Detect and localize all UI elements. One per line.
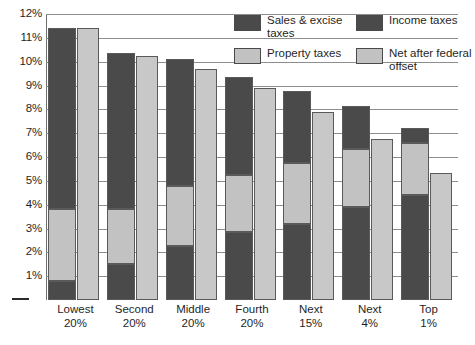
bar-segment-income-taxes xyxy=(283,91,311,163)
y-tick-label: 12% xyxy=(2,7,42,19)
total-tax-bar xyxy=(166,59,194,300)
net-after-federal-offset-bar xyxy=(312,112,334,300)
net-after-federal-offset-bar xyxy=(430,173,452,301)
y-tick-label: 2% xyxy=(2,245,42,257)
x-axis-label-line: Fourth xyxy=(223,303,282,317)
total-tax-bar xyxy=(283,91,311,300)
legend-label: Sales & excise taxes xyxy=(267,14,353,39)
bar-segment-income-taxes xyxy=(166,59,194,185)
bar-segment-sales-excise-taxes xyxy=(401,195,429,300)
y-tick-label: 6% xyxy=(2,150,42,162)
net-after-federal-offset-bar xyxy=(195,69,217,300)
bar-segment-sales-excise-taxes xyxy=(166,246,194,300)
bar-group xyxy=(46,14,105,300)
x-axis-label-line: 15% xyxy=(281,317,340,331)
x-axis-label: Middle20% xyxy=(164,303,223,330)
y-tick-label: 9% xyxy=(2,79,42,91)
bar-segment-sales-excise-taxes xyxy=(225,232,253,300)
chart-legend: Sales & excise taxesIncome taxesProperty… xyxy=(234,14,456,76)
y-tick-label: 10% xyxy=(2,55,42,67)
bar-segment-property-taxes xyxy=(401,143,429,195)
bar-segment-property-taxes xyxy=(48,209,76,281)
x-axis-label-line: 20% xyxy=(164,317,223,331)
bar-segment-property-taxes xyxy=(166,186,194,247)
bar-segment-sales-excise-taxes xyxy=(48,281,76,300)
x-axis-label-line: Next xyxy=(281,303,340,317)
net-after-federal-offset-bar xyxy=(136,56,158,300)
y-tick-label: 7% xyxy=(2,126,42,138)
bar-segment-property-taxes xyxy=(283,163,311,224)
bar-group xyxy=(105,14,164,300)
bar-segment-property-taxes xyxy=(342,149,370,207)
bar-segment-property-taxes xyxy=(225,175,253,232)
x-axis-label: Lowest20% xyxy=(46,303,105,330)
bar-segment-income-taxes xyxy=(107,53,135,209)
bar-segment-income-taxes xyxy=(401,128,429,142)
x-axis-labels: Lowest20%Second20%Middle20%Fourth20%Next… xyxy=(46,303,458,341)
legend-label: Net after federal offset xyxy=(389,47,475,72)
legend-swatch-dark xyxy=(234,15,261,31)
x-axis-label-line: Middle xyxy=(164,303,223,317)
y-tick-label: 5% xyxy=(2,174,42,186)
legend-label: Income taxes xyxy=(389,14,475,27)
legend-label: Property taxes xyxy=(267,47,353,60)
net-after-federal-offset-bar xyxy=(254,88,276,300)
y-axis-labels: 12%11%10%9%8%7%6%5%4%3%2%1% xyxy=(0,14,42,300)
x-axis-label-line: 1% xyxy=(399,317,458,331)
x-axis-label-line: Lowest xyxy=(46,303,105,317)
x-axis-label: Second20% xyxy=(105,303,164,330)
x-axis-label-line: 4% xyxy=(340,317,399,331)
net-after-federal-offset-bar xyxy=(371,139,393,300)
total-tax-bar xyxy=(342,106,370,300)
bar-segment-sales-excise-taxes xyxy=(342,207,370,300)
total-tax-bar xyxy=(401,128,429,300)
bar-segment-income-taxes xyxy=(225,77,253,175)
x-axis-label-line: Top xyxy=(399,303,458,317)
y-tick-label: 11% xyxy=(2,31,42,43)
bar-segment-income-taxes xyxy=(342,106,370,149)
x-axis-label-line: Next xyxy=(340,303,399,317)
y-tick-label: 3% xyxy=(2,222,42,234)
bar-segment-income-taxes xyxy=(48,28,76,209)
legend-swatch-light xyxy=(234,48,261,64)
x-axis-label-line: Second xyxy=(105,303,164,317)
bar-segment-property-taxes xyxy=(107,209,135,264)
zero-tick-mark xyxy=(12,298,29,300)
x-axis-label: Next15% xyxy=(281,303,340,330)
total-tax-bar xyxy=(107,53,135,300)
y-tick-label: 1% xyxy=(2,269,42,281)
bar-segment-sales-excise-taxes xyxy=(283,224,311,300)
x-axis-label-line: 20% xyxy=(105,317,164,331)
bar-group xyxy=(164,14,223,300)
net-after-federal-offset-bar xyxy=(77,28,99,300)
bar-segment-sales-excise-taxes xyxy=(107,264,135,300)
y-tick-label: 4% xyxy=(2,198,42,210)
x-axis-label-line: 20% xyxy=(46,317,105,331)
y-tick-label: 8% xyxy=(2,102,42,114)
total-tax-bar xyxy=(48,28,76,300)
x-axis-label: Fourth20% xyxy=(223,303,282,330)
legend-swatch-light xyxy=(356,48,383,64)
x-axis-label: Next4% xyxy=(340,303,399,330)
total-tax-bar xyxy=(225,77,253,300)
x-axis-label-line: 20% xyxy=(223,317,282,331)
x-axis-label: Top1% xyxy=(399,303,458,330)
legend-swatch-dark xyxy=(356,15,383,31)
